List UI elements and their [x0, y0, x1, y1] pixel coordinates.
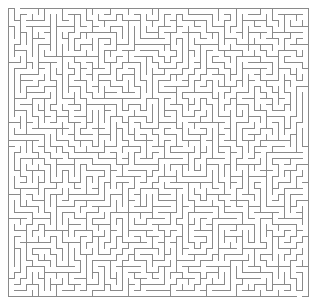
- maze-drawing: [0, 0, 319, 306]
- maze-figure: [0, 0, 319, 306]
